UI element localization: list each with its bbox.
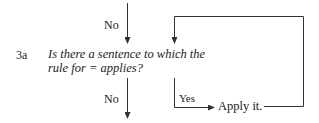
step-id: 3a	[16, 48, 27, 63]
outgoing-no-label: No	[104, 92, 119, 107]
yes-label: Yes	[179, 92, 195, 104]
question-line-1: Is there a sentence to which the	[48, 47, 205, 61]
question-line-2: rule for = applies?	[48, 61, 143, 75]
action-apply-it: Apply it.	[218, 99, 262, 114]
incoming-no-label: No	[104, 18, 119, 33]
